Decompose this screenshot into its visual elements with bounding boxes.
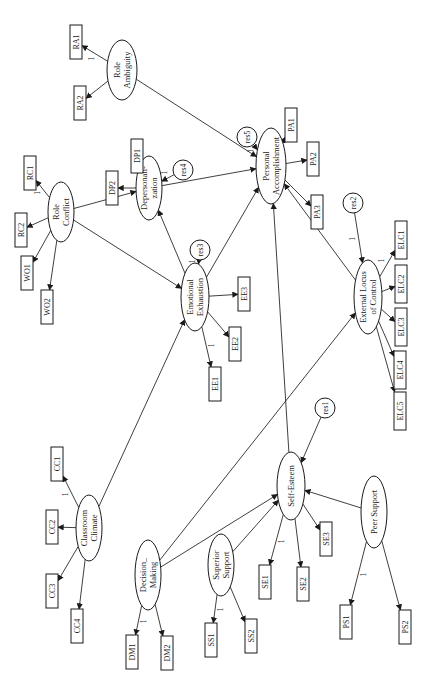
loading-SelfEst-to-SE2 — [295, 519, 301, 567]
loading-ClassClim-to-CC4 — [79, 560, 85, 609]
fixed-loading-ELC1: 1 — [377, 258, 386, 262]
observed-label-SS1-text: SS1 — [207, 634, 216, 647]
observed-label-CC4-text: CC4 — [73, 619, 82, 634]
loading-RoleCon-to-WO2 — [50, 240, 57, 290]
observed-label-ELC1: ELC1 — [397, 230, 406, 249]
observed-label-RA1-text: RA1 — [72, 34, 81, 49]
observed-label-ELC4-text: ELC4 — [396, 360, 405, 379]
observed-label-PS2: PS2 — [401, 621, 410, 634]
latent-label-DecMak-text: Decision_ — [138, 557, 148, 592]
svg-text:1: 1 — [61, 492, 70, 496]
path-PeerSup-to-SelfEst — [305, 490, 361, 508]
nodes-layer: 111111111111111RoleAmbiguityRoleConflict… — [15, 25, 411, 670]
latent-label-RoleAmb-text: Ambiguity — [122, 51, 132, 89]
latent-label-DecMak: Decision_Making — [138, 557, 158, 592]
latent-label-PeerSup-text: Peer Support — [369, 489, 379, 534]
loading-ELC-to-ELC1 — [380, 250, 395, 276]
observed-label-EE1-text: EE1 — [211, 377, 220, 391]
fixed-residual-res5: 1 — [246, 149, 255, 153]
svg-text:1: 1 — [377, 258, 386, 262]
latent-label-ClassClim: ClassroomClimate — [79, 509, 99, 546]
observed-label-RA1: RA1 — [72, 34, 81, 49]
path-RoleCon-to-Deper — [74, 192, 136, 209]
path-RoleAmb-to-PersAcc — [136, 79, 256, 156]
observed-label-CC4: CC4 — [73, 619, 82, 634]
latent-label-ClassClim-text: Climate — [89, 514, 99, 541]
observed-label-WO1: WO1 — [23, 264, 32, 281]
residual-label-res1: res1 — [321, 402, 330, 415]
observed-label-ELC3: ELC3 — [397, 317, 406, 336]
observed-label-ELC2: ELC2 — [397, 274, 406, 293]
observed-label-WO2: WO2 — [43, 298, 52, 315]
observed-label-DP2: DP2 — [108, 181, 117, 195]
fixed-loading-PS1: 1 — [359, 573, 368, 577]
observed-label-ELC4: ELC4 — [396, 360, 405, 379]
loading-EmoEx-to-EE3 — [209, 294, 238, 296]
residual-label-res1-text: res1 — [321, 402, 330, 415]
latent-label-SelfEst: Self-Esteem — [286, 465, 296, 507]
latent-label-PersAcc-text: Accomplishment — [271, 136, 281, 195]
loading-ClassClim-to-CC3 — [58, 546, 78, 580]
latent-label-ELC-text: External Locus — [358, 271, 368, 323]
path-EmoEx-to-Deper — [158, 210, 185, 273]
loading-RoleCon-to-WO1 — [33, 230, 51, 262]
latent-label-PersAcc-text: Personal — [261, 151, 271, 181]
path-RoleCon-to-EmoEx — [74, 220, 182, 288]
observed-label-DM1-text: DM1 — [128, 644, 137, 661]
latent-label-SupSup-text: Support — [221, 551, 231, 579]
residual-label-res4-text: res4 — [179, 164, 188, 177]
observed-label-DM1: DM1 — [128, 644, 137, 661]
observed-label-EE2: EE2 — [231, 337, 240, 351]
latent-label-RoleCon-text: Role — [51, 204, 61, 220]
svg-text:1: 1 — [160, 171, 169, 175]
loading-RoleAmb-to-RA2 — [86, 81, 108, 98]
observed-label-DP2-text: DP2 — [108, 181, 117, 195]
fixed-loading-EE1: 1 — [207, 343, 216, 347]
observed-label-ELC5: ELC5 — [396, 401, 405, 420]
observed-label-PA1: PA1 — [287, 118, 296, 132]
observed-label-WO1-text: WO1 — [23, 264, 32, 281]
latent-label-ELC-text: of Control — [368, 279, 378, 315]
loading-PeerSup-to-PS2 — [382, 541, 401, 610]
loading-SelfEst-to-SE3 — [303, 504, 320, 530]
residual-label-res2: res2 — [349, 197, 358, 210]
observed-label-SE1-text: SE1 — [261, 575, 270, 588]
observed-label-CC3-text: CC3 — [48, 584, 57, 599]
fixed-loading-RC1: 1 — [33, 191, 42, 195]
residual-path-res4 — [162, 175, 174, 182]
svg-text:1: 1 — [277, 539, 286, 543]
residual-path-res5 — [253, 145, 257, 150]
observed-label-RC1: RC1 — [26, 166, 35, 181]
loading-ELC-to-ELC3 — [381, 309, 395, 322]
observed-label-CC2: CC2 — [48, 520, 57, 535]
observed-label-PS1: PS1 — [342, 616, 351, 629]
observed-label-PS1-text: PS1 — [342, 616, 351, 629]
svg-text:1: 1 — [139, 619, 148, 623]
latent-label-PeerSup: Peer Support — [369, 489, 379, 534]
residual-label-res3-text: res3 — [196, 244, 205, 257]
path-ClassClim-to-EmoEx — [99, 320, 185, 507]
observed-label-RA2-text: RA2 — [76, 95, 85, 110]
svg-text:1: 1 — [207, 343, 216, 347]
svg-text:1: 1 — [33, 191, 42, 195]
observed-label-SE2: SE2 — [299, 577, 308, 590]
observed-label-ELC1-text: ELC1 — [397, 230, 406, 249]
latent-label-EmoEx-text: Emotional — [185, 279, 195, 315]
observed-label-ELC3-text: ELC3 — [397, 317, 406, 336]
fixed-loading-SS1: 1 — [216, 607, 225, 611]
observed-label-SS1: SS1 — [207, 634, 216, 647]
fixed-loading-SE1: 1 — [277, 539, 286, 543]
path-SelfEst-to-PersAcc — [273, 204, 289, 453]
observed-label-RC1-text: RC1 — [26, 166, 35, 181]
loading-ELC-to-ELC2 — [382, 286, 395, 291]
observed-label-RC2: RC2 — [17, 223, 26, 238]
observed-label-ELC2-text: ELC2 — [397, 274, 406, 293]
svg-text:1: 1 — [87, 56, 96, 60]
latent-label-RoleAmb-text: Role — [112, 62, 122, 78]
latent-label-Deper-text: zation — [149, 177, 159, 199]
fixed-loading-DM1: 1 — [139, 619, 148, 623]
observed-label-SE2-text: SE2 — [299, 577, 308, 590]
loading-EmoEx-to-EE2 — [208, 312, 229, 337]
latent-label-ClassClim-text: Classroom — [79, 509, 89, 546]
observed-label-PA1-text: PA1 — [287, 118, 296, 132]
